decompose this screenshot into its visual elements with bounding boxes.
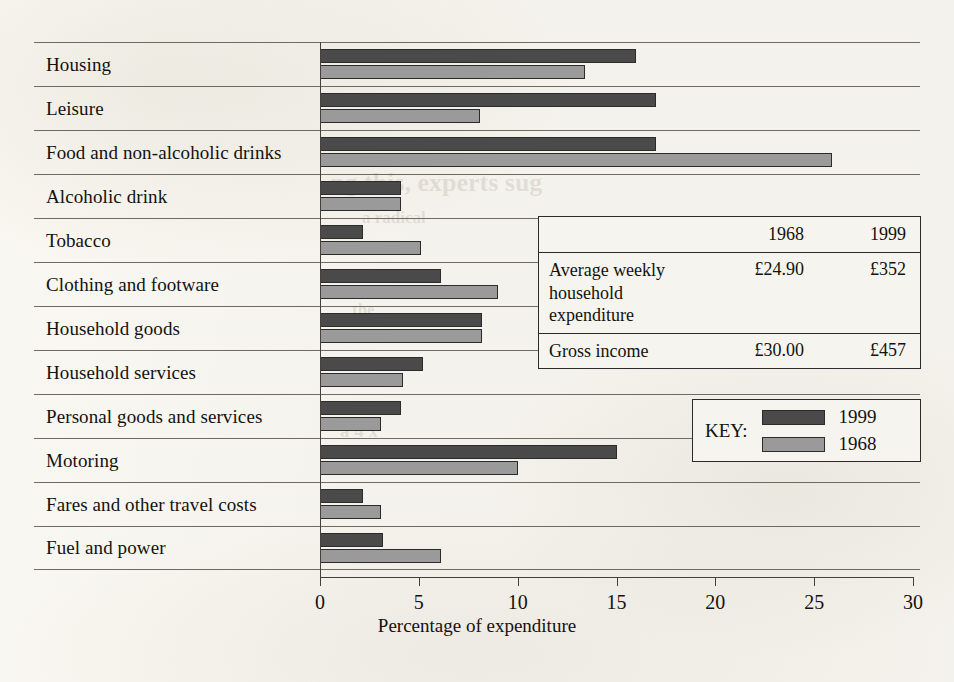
x-tick [814, 577, 815, 586]
table-header-1968: 1968 [716, 217, 818, 252]
legend-item-1999: 1999 [762, 406, 877, 428]
bar-1968 [320, 549, 441, 563]
table-header-row: 1968 1999 [539, 217, 920, 252]
bar-1999 [320, 225, 363, 239]
legend-label-1999: 1999 [839, 406, 877, 428]
category-label: Tobacco [46, 230, 111, 252]
bar-1968 [320, 461, 518, 475]
bar-group [320, 131, 920, 175]
category-label: Fuel and power [46, 537, 166, 559]
bar-1999 [320, 313, 482, 327]
bar-group [320, 87, 920, 131]
x-tick [419, 577, 420, 586]
table-header-label [539, 217, 716, 229]
category-label: Household services [46, 362, 196, 384]
category-label: Leisure [46, 98, 104, 120]
bar-1968 [320, 241, 421, 255]
dark-swatch-icon [762, 410, 825, 425]
legend-label-1968: 1968 [839, 433, 877, 455]
bar-1968 [320, 329, 482, 343]
x-axis-title: Percentage of expenditure [0, 615, 954, 637]
bar-1999 [320, 401, 401, 415]
chart-row: Fares and other travel costs [34, 482, 920, 526]
table-header-1999: 1999 [818, 217, 920, 252]
y-axis-line [320, 42, 321, 578]
bar-1968 [320, 373, 403, 387]
legend-item-1968: 1968 [762, 433, 877, 455]
category-label: Motoring [46, 450, 119, 472]
x-tick [320, 577, 321, 586]
bar-1999 [320, 137, 656, 151]
table-cell-1968: £24.90 [716, 253, 818, 286]
table-row-label: Gross income [539, 334, 716, 369]
bar-group [320, 527, 920, 571]
category-label: Personal goods and services [46, 406, 262, 428]
category-label: Clothing and footware [46, 274, 219, 296]
x-tick [715, 577, 716, 586]
chart-row: Housing [34, 42, 920, 86]
category-label: Fares and other travel costs [46, 494, 257, 516]
bar-1968 [320, 505, 381, 519]
category-label: Food and non-alcoholic drinks [46, 142, 282, 164]
x-tick-label: 25 [804, 591, 824, 614]
table-cell-1999: £457 [818, 334, 920, 367]
table-row-label: Average weekly household expenditure [539, 253, 716, 333]
bar-1999 [320, 489, 363, 503]
table-row: Average weekly household expenditure £24… [539, 252, 920, 333]
x-tick [617, 577, 618, 586]
x-tick-label: 30 [903, 591, 923, 614]
light-swatch-icon [762, 437, 825, 452]
table-cell-1999: £352 [818, 253, 920, 286]
chart-legend: KEY: 1999 1968 [692, 399, 921, 462]
bar-1999 [320, 269, 441, 283]
chart-row: Food and non-alcoholic drinks [34, 130, 920, 174]
legend-key-word: KEY: [693, 420, 762, 442]
table-cell-1968: £30.00 [716, 334, 818, 367]
x-tick-label: 0 [315, 591, 325, 614]
legend-items: 1999 1968 [762, 406, 877, 455]
summary-data-table: 1968 1999 Average weekly household expen… [538, 216, 921, 369]
bar-1999 [320, 181, 401, 195]
bar-1999 [320, 93, 656, 107]
x-tick [913, 577, 914, 586]
category-label: Alcoholic drink [46, 186, 167, 208]
bar-1968 [320, 65, 585, 79]
x-tick-label: 15 [607, 591, 627, 614]
x-tick [518, 577, 519, 586]
bar-group [320, 483, 920, 527]
bar-1968 [320, 197, 401, 211]
bar-1968 [320, 153, 832, 167]
chart-row: Fuel and power [34, 526, 920, 570]
chart-row: Leisure [34, 86, 920, 130]
x-axis-line: 051015202530 [320, 577, 913, 578]
bar-1968 [320, 417, 381, 431]
horizontal-bar-chart: ng this, experts suga radicalthea 4 x Ho… [0, 0, 954, 682]
bar-group [320, 43, 920, 87]
chart-row: Alcoholic drink [34, 174, 920, 218]
x-tick-label: 10 [508, 591, 528, 614]
bar-1968 [320, 109, 480, 123]
bar-group [320, 175, 920, 219]
bar-1968 [320, 285, 498, 299]
category-label: Housing [46, 54, 111, 76]
bar-1999 [320, 445, 617, 459]
category-label: Household goods [46, 318, 180, 340]
x-tick-label: 5 [414, 591, 424, 614]
table-row: Gross income £30.00 £457 [539, 333, 920, 369]
bar-1999 [320, 533, 383, 547]
x-tick-label: 20 [705, 591, 725, 614]
bar-1999 [320, 357, 423, 371]
bar-1999 [320, 49, 636, 63]
